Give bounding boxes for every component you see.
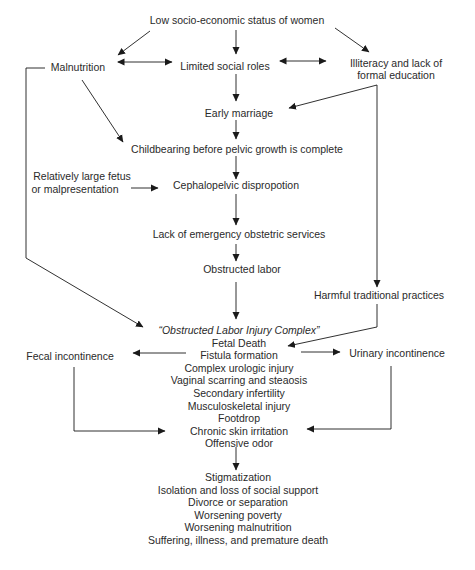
olic-item: Chronic skin irritation [158, 425, 319, 438]
node-childbearing: Childbearing before pelvic growth is com… [131, 143, 343, 156]
node-illiteracy-line-1: Illiteracy and lack of [350, 57, 442, 69]
consequence-item: Isolation and loss of social support [148, 484, 328, 497]
node-limited-social-roles: Limited social roles [180, 60, 269, 73]
arrow-malnutrition-to-childbearing [82, 80, 123, 142]
olic-item: Fetal Death [158, 337, 319, 350]
consequence-item: Worsening malnutrition [148, 521, 328, 534]
olic-item: Offensive odor [158, 437, 319, 450]
olic-title: “Obstructed Labor Injury Complex” [158, 324, 319, 337]
olic-item: Footdrop [158, 412, 319, 425]
node-malnutrition: Malnutrition [51, 61, 105, 74]
olic-item: Secondary infertility [158, 387, 319, 400]
consequence-item: Stigmatization [148, 471, 328, 484]
node-urinary-incontinence: Urinary incontinence [349, 347, 445, 360]
consequence-item: Worsening poverty [148, 509, 328, 522]
node-large-fetus-line-1: Relatively large fetus [32, 170, 133, 183]
node-illiteracy: Illiteracy and lack of formal education [350, 57, 442, 81]
node-consequences: Stigmatization Isolation and loss of soc… [148, 471, 328, 547]
node-obstructed-labor: Obstructed labor [203, 263, 281, 276]
olic-item: Complex urologic injury [158, 362, 319, 375]
node-root: Low socio-economic status of women [150, 14, 325, 27]
node-large-fetus-line-2: or malpresentation [32, 183, 133, 196]
node-illiteracy-line-2: formal education [350, 69, 442, 81]
consequence-item: Divorce or separation [148, 496, 328, 509]
arrow-urinary-to-skin [307, 366, 391, 429]
node-cephalopelvic-disproportion: Cephalopelvic dispropotion [173, 179, 299, 192]
arrow-fecal-to-skin [74, 367, 165, 431]
arrow-illiteracy-to-early-marriage [289, 85, 377, 108]
consequence-item: Suffering, illness, and premature death [148, 534, 328, 547]
node-large-fetus: Relatively large fetus or malpresentatio… [32, 170, 133, 195]
olic-item: Fistula formation [158, 349, 319, 362]
node-olic: “Obstructed Labor Injury Complex” Fetal … [158, 324, 319, 450]
olic-item: Musculoskeletal injury [158, 400, 319, 413]
node-fecal-incontinence: Fecal incontinence [26, 350, 114, 363]
arrow-malnutrition-to-olic [26, 68, 143, 327]
arrow-root-to-illiteracy [335, 28, 369, 52]
arrow-root-to-malnutrition [118, 31, 150, 55]
node-harmful-practices: Harmful traditional practices [314, 289, 444, 302]
node-lack-emergency-services: Lack of emergency obstetric services [153, 228, 326, 241]
olic-item: Vaginal scarring and steaosis [158, 374, 319, 387]
node-early-marriage: Early marriage [205, 107, 273, 120]
